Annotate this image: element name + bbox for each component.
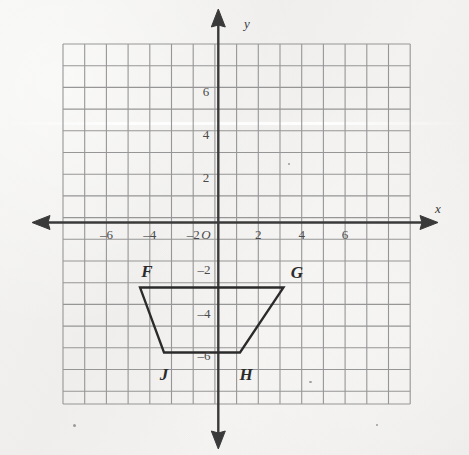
trapezoid-outline: [140, 288, 284, 353]
y-axis-arrow-down: [211, 431, 225, 449]
coordinate-plane-figure: x y O –6 –4 –2 2 4 6 6 4 2 –2 –4 –6 F G …: [0, 0, 469, 455]
trapezoid-fghj: [140, 288, 284, 353]
x-tick-label-pos4: 4: [298, 227, 305, 243]
vertex-label-g: G: [291, 263, 303, 283]
y-tick-label-neg2: –2: [198, 262, 211, 278]
y-axis-label: y: [244, 16, 250, 32]
vertex-label-f: F: [141, 262, 152, 282]
x-tick-label-pos2: 2: [255, 227, 262, 243]
graph-canvas: [0, 0, 469, 455]
x-axis-arrow-right: [420, 216, 438, 230]
vertex-label-h: H: [239, 365, 252, 385]
axes: [32, 9, 438, 449]
x-axis-arrow-left: [32, 216, 50, 230]
y-axis-arrow-up: [211, 9, 225, 27]
y-tick-label-neg4: –4: [198, 306, 211, 322]
x-axis-label: x: [435, 201, 441, 217]
grid-lines: [63, 44, 410, 404]
y-tick-label-neg6: –6: [198, 348, 211, 364]
x-tick-label-neg6: –6: [100, 227, 113, 243]
y-tick-label-pos4: 4: [203, 127, 210, 143]
vertex-label-j: J: [160, 365, 169, 385]
x-tick-label-pos6: 6: [342, 227, 349, 243]
x-tick-label-neg4: –4: [143, 227, 156, 243]
x-tick-label-neg2: –2: [187, 227, 200, 243]
y-tick-label-pos6: 6: [203, 84, 210, 100]
origin-label: O: [201, 227, 210, 243]
y-tick-label-pos2: 2: [203, 170, 210, 186]
